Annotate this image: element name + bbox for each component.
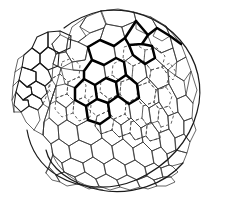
open-flap-aperture xyxy=(12,31,71,135)
front-surface-mesh xyxy=(43,9,197,190)
figure-root xyxy=(0,0,225,201)
highlight-band-path xyxy=(75,21,181,124)
fullerene-cage-diagram xyxy=(0,0,225,201)
